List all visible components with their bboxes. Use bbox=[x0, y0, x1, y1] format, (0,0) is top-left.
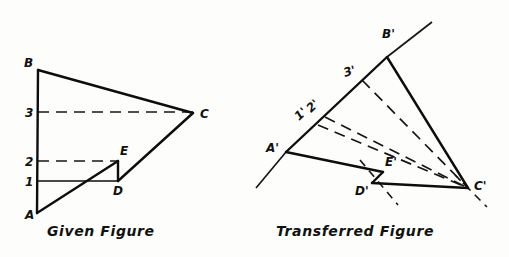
transferred-vertex-label-E: E' bbox=[385, 155, 397, 169]
given-figure-group: A B C D E 1 2 3 Given Figure bbox=[24, 56, 209, 239]
given-edge-C-D bbox=[118, 113, 193, 181]
given-reference-label-1: 1 bbox=[25, 175, 33, 189]
given-vertex-label-B: B bbox=[24, 56, 33, 70]
transferred-vertex-label-A: A' bbox=[265, 141, 279, 155]
transferred-edge-A-B bbox=[286, 57, 387, 152]
transferred-axis-extension-lower bbox=[256, 152, 286, 188]
transferred-reference-label-3prime: 3' bbox=[342, 63, 358, 80]
transferred-vertex-label-D: D' bbox=[355, 184, 369, 198]
given-vertex-label-C: C bbox=[200, 107, 209, 121]
given-reference-label-3: 3 bbox=[25, 106, 33, 120]
transferred-figure-group: A' B' C' D' E' 1' 2' 3' Transferred Figu… bbox=[256, 22, 487, 239]
figure-sheet: A B C D E 1 2 3 Given Figure bbox=[0, 0, 509, 257]
given-figure-caption: Given Figure bbox=[47, 223, 155, 239]
given-edge-A-B bbox=[37, 70, 38, 213]
technical-drawing-canvas: A B C D E 1 2 3 Given Figure bbox=[0, 0, 509, 257]
given-vertex-label-E: E bbox=[120, 144, 129, 158]
transferred-edge-C-D bbox=[372, 183, 468, 188]
transferred-vertex-label-C: C' bbox=[474, 179, 486, 193]
transferred-figure-caption: Transferred Figure bbox=[276, 223, 434, 239]
given-vertex-label-D: D bbox=[113, 184, 123, 198]
given-vertex-label-A: A bbox=[24, 208, 34, 222]
transferred-vertex-label-B: B' bbox=[382, 27, 395, 41]
given-edge-B-C bbox=[38, 70, 193, 113]
given-reference-label-2: 2 bbox=[25, 155, 33, 169]
given-edge-E-A bbox=[37, 161, 118, 213]
transferred-edge-D-E bbox=[372, 172, 383, 183]
transferred-edge-E-A bbox=[286, 152, 383, 172]
